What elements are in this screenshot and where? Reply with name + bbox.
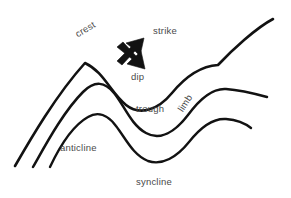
label-dip: dip: [131, 72, 144, 82]
label-trough: trough: [136, 104, 164, 114]
upper-bed-line: [15, 19, 273, 166]
lower-bed-line: [50, 114, 251, 167]
fold-structure-diagram: crest strike dip trough limb anticline s…: [0, 0, 291, 198]
fold-geometry-svg: [0, 0, 291, 198]
label-strike: strike: [153, 26, 177, 36]
label-syncline: syncline: [136, 177, 172, 187]
middle-bed-line: [33, 84, 267, 167]
label-anticline: anticline: [60, 143, 97, 153]
